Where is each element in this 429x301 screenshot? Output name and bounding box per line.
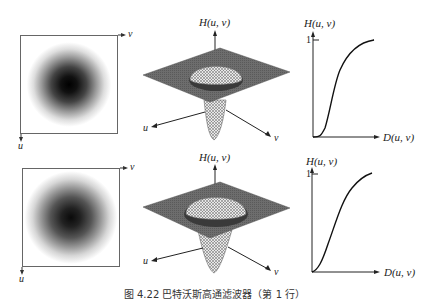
profile-x-label: D(u, v) <box>384 267 415 278</box>
profile-y-tick: 1 <box>306 169 311 179</box>
profile-y-label: H(u, v) <box>306 156 337 167</box>
figure-caption: 图 4.22 巴特沃斯高通滤波器（第 1 行） <box>0 286 429 301</box>
